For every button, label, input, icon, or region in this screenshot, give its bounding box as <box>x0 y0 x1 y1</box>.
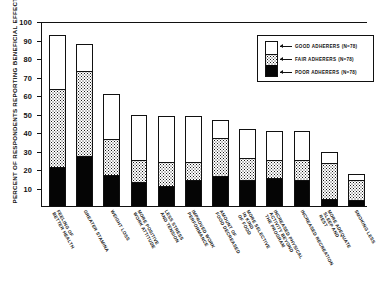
y-tick-label: 80 <box>24 55 32 64</box>
bar <box>294 131 311 207</box>
bar <box>212 120 229 207</box>
bar <box>103 94 120 207</box>
leader-line-icon <box>280 59 292 60</box>
y-axis-title: PERCENT OF RESPONDENTS REPORTING BENEFIC… <box>11 4 18 204</box>
y-tick: 90 <box>37 41 41 42</box>
legend-n-fair: (N=78) <box>338 57 353 62</box>
bar <box>185 116 202 207</box>
y-tick: 70 <box>37 78 41 79</box>
y-tick-label: 90 <box>24 36 32 45</box>
y-tick-label: 30 <box>24 147 32 156</box>
y-tick: 30 <box>37 152 41 153</box>
bar <box>239 129 256 207</box>
bar <box>76 44 93 207</box>
legend-n-poor: (N=78) <box>341 70 356 75</box>
bar-segment-poor <box>159 186 174 206</box>
bar-segment-poor <box>213 176 228 206</box>
y-tick-label: 100 <box>19 18 32 27</box>
legend-label-poor: POOR ADHERERS <box>295 70 339 75</box>
bar-segment-poor <box>77 156 92 206</box>
y-tick-label: 40 <box>24 129 32 138</box>
leader-line-icon <box>280 46 292 47</box>
bar <box>266 131 283 207</box>
legend-item-fair: FAIR ADHERERS (N=78) <box>280 54 354 64</box>
bar-segment-poor <box>267 178 282 206</box>
bar-chart: PERCENT OF RESPONDENTS REPORTING BENEFIC… <box>0 0 377 287</box>
bar-segment-poor <box>186 180 201 206</box>
bar-segment-poor <box>322 199 337 206</box>
leader-line-icon <box>280 72 292 73</box>
y-tick: 10 <box>37 189 41 190</box>
bar <box>158 116 175 207</box>
y-tick-label: 50 <box>24 110 32 119</box>
y-axis-line <box>41 22 42 207</box>
top-border-line <box>41 22 367 23</box>
y-tick: 20 <box>37 170 41 171</box>
y-tick: 80 <box>37 59 41 60</box>
bar-segment-poor <box>50 167 65 206</box>
legend-label-fair: FAIR ADHERERS <box>295 57 336 62</box>
legend: GOOD ADHERERS (N=78) FAIR ADHERERS (N=78… <box>257 35 374 82</box>
bar-segment-poor <box>295 180 310 206</box>
bar-segment-poor <box>240 180 255 206</box>
bar <box>49 35 66 207</box>
y-tick: 50 <box>37 115 41 116</box>
legend-item-good: GOOD ADHERERS (N=78) <box>280 41 357 51</box>
legend-item-poor: POOR ADHERERS (N=78) <box>280 67 357 77</box>
y-tick-label: 70 <box>24 73 32 82</box>
legend-swatch <box>265 41 278 77</box>
y-tick-label: 60 <box>24 92 32 101</box>
y-tick: 40 <box>37 133 41 134</box>
y-tick: 60 <box>37 96 41 97</box>
legend-n-good: (N=78) <box>342 44 357 49</box>
y-tick: 100 <box>37 22 41 23</box>
bar-segment-poor <box>104 175 119 206</box>
bar-segment-poor <box>132 182 147 206</box>
bar-segment-poor <box>349 200 364 206</box>
y-tick-label: 20 <box>24 166 32 175</box>
legend-swatch-poor <box>266 65 277 76</box>
y-tick-label: 10 <box>24 184 32 193</box>
legend-label-good: GOOD ADHERERS <box>295 44 340 49</box>
bar <box>348 174 365 207</box>
bar <box>321 152 338 208</box>
x-axis-labels: FEELING OFBETTER HEALTHGREATER STAMINAWE… <box>41 209 367 287</box>
bar <box>131 115 148 208</box>
